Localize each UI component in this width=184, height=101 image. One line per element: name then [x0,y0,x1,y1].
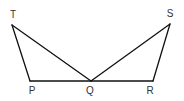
point-labels: T S P Q R [10,8,174,96]
segment-sr [153,24,170,81]
label-p: P [29,85,36,96]
geometry-diagram: T S P Q R [0,0,184,101]
label-t: T [10,9,16,20]
segment-tp [12,25,30,81]
segment-qs [91,24,170,81]
label-q: Q [86,85,94,96]
label-s: S [167,8,174,19]
segment-tq [12,25,91,81]
segments [12,24,170,81]
label-r: R [146,85,153,96]
